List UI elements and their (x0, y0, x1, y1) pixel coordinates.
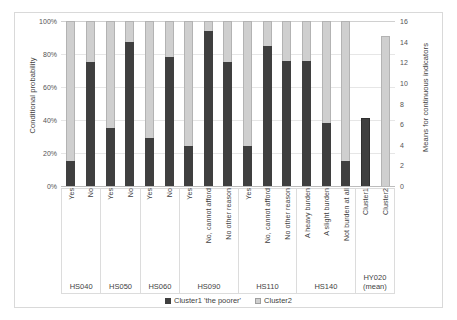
group-label: HS050 (101, 282, 139, 291)
bar-segment-cluster2[interactable] (184, 21, 193, 146)
bar-segment-cluster1[interactable] (263, 46, 272, 186)
y-tick-label-left: 0% (47, 183, 57, 190)
group-label-text: HS050 (109, 282, 132, 291)
bar-segment-cluster2[interactable] (302, 21, 311, 61)
group-labels: HS040HS050HS060HS090HS110HS140HY020(mean… (61, 188, 395, 293)
group-label: HY020(mean) (356, 273, 394, 291)
group-cell: HS090 (179, 188, 238, 293)
group-label-sub: (mean) (356, 282, 394, 291)
bar-segment-cluster2[interactable] (125, 21, 134, 42)
bar-segment-cluster1[interactable] (106, 128, 115, 186)
bar-stacked[interactable] (125, 21, 134, 186)
bar-segment-cluster1[interactable] (361, 118, 370, 186)
bar-segment-cluster1[interactable] (66, 161, 75, 186)
bar-stacked[interactable] (341, 21, 350, 186)
y-tick-label-left: 100% (39, 18, 57, 25)
group-cell: HS050 (100, 188, 139, 293)
bar-stacked[interactable] (86, 21, 95, 186)
y-tick-label-right: 8 (400, 100, 404, 107)
bar-stacked[interactable] (66, 21, 75, 186)
bar-segment-cluster1[interactable] (184, 146, 193, 186)
bar-segment-cluster1[interactable] (204, 31, 213, 186)
group-label-text: HY020 (363, 273, 386, 282)
y-tick-label-right: 10 (400, 79, 408, 86)
bar-segment-cluster2[interactable] (282, 21, 291, 61)
y-tick-label-right: 14 (400, 38, 408, 45)
bar-segment-cluster1[interactable] (302, 61, 311, 186)
bar-segment-cluster1[interactable] (341, 161, 350, 186)
bar-stacked[interactable] (223, 21, 232, 186)
bars-layer (61, 21, 395, 186)
bar-slot (356, 21, 376, 186)
bar-single[interactable] (381, 21, 390, 186)
group-bottom-rule (61, 293, 395, 294)
bar-stacked[interactable] (302, 21, 311, 186)
bar-segment-cluster2[interactable] (381, 36, 390, 186)
bar-segment-cluster1[interactable] (322, 123, 331, 186)
bar-segment-cluster1[interactable] (86, 62, 95, 186)
bar-segment-cluster1[interactable] (125, 42, 134, 186)
group-cell: HY020(mean) (355, 188, 395, 293)
bar-slot (198, 21, 218, 186)
bar-segment-cluster2[interactable] (243, 21, 252, 146)
bar-slot (120, 21, 140, 186)
bar-segment-cluster2[interactable] (223, 21, 232, 62)
plot-area: 0%20%40%60%80%100%0246810121416 (61, 21, 395, 186)
y-tick-label-left: 60% (43, 84, 57, 91)
bar-stacked[interactable] (243, 21, 252, 186)
bar-stacked[interactable] (263, 21, 272, 186)
bar-stacked[interactable] (282, 21, 291, 186)
group-cell: HS110 (238, 188, 297, 293)
bar-stacked[interactable] (184, 21, 193, 186)
bar-slot (81, 21, 101, 186)
y-tick-label-left: 20% (43, 150, 57, 157)
y-tick-label-left: 40% (43, 117, 57, 124)
bar-segment-cluster2[interactable] (106, 21, 115, 128)
group-label: HS060 (141, 282, 179, 291)
group-label-text: HS060 (148, 282, 171, 291)
bar-segment-cluster2[interactable] (165, 21, 174, 57)
group-label: HS090 (180, 282, 238, 291)
bar-slot (159, 21, 179, 186)
y-tick-label-right: 16 (400, 18, 408, 25)
legend-item[interactable]: Cluster2 (255, 296, 292, 305)
bar-stacked[interactable] (145, 21, 154, 186)
bar-segment-cluster1[interactable] (223, 62, 232, 186)
bar-slot (257, 21, 277, 186)
bar-stacked[interactable] (106, 21, 115, 186)
legend-swatch-icon (165, 298, 171, 304)
y-tick-label-left: 80% (43, 51, 57, 58)
bar-single[interactable] (361, 21, 370, 186)
bar-segment-cluster2[interactable] (322, 21, 331, 123)
bar-segment-cluster1[interactable] (282, 61, 291, 186)
bar-segment-cluster2[interactable] (145, 21, 154, 138)
legend-label: Cluster1 'the poorer' (174, 296, 241, 305)
bar-stacked[interactable] (165, 21, 174, 186)
bar-segment-cluster2[interactable] (86, 21, 95, 62)
y-axis-title-left: Conditional probability (28, 36, 37, 156)
bar-segment-cluster1[interactable] (243, 146, 252, 186)
group-label-text: HS110 (256, 282, 278, 291)
chart-legend: Cluster1 'the poorer'Cluster2 (15, 296, 442, 305)
bar-slot (218, 21, 238, 186)
bar-slot (179, 21, 199, 186)
group-cell: HS040 (61, 188, 100, 293)
y-tick-label-right: 6 (400, 121, 404, 128)
y-tick-label-right: 2 (400, 162, 404, 169)
bar-segment-cluster2[interactable] (66, 21, 75, 161)
chart-frame: Conditional probability Means for contin… (14, 12, 443, 308)
bar-segment-cluster1[interactable] (145, 138, 154, 186)
y-tick-label-right: 12 (400, 59, 408, 66)
bar-segment-cluster1[interactable] (165, 57, 174, 186)
group-label: HS110 (239, 282, 297, 291)
bar-slot (316, 21, 336, 186)
bar-segment-cluster2[interactable] (341, 21, 350, 161)
bar-stacked[interactable] (322, 21, 331, 186)
bar-segment-cluster2[interactable] (263, 21, 272, 46)
bar-stacked[interactable] (204, 21, 213, 186)
bar-slot (277, 21, 297, 186)
bar-segment-cluster2[interactable] (204, 21, 213, 31)
legend-item[interactable]: Cluster1 'the poorer' (165, 296, 241, 305)
bar-slot (238, 21, 258, 186)
y-axis-title-right: Means for continuous indicators (421, 38, 430, 158)
